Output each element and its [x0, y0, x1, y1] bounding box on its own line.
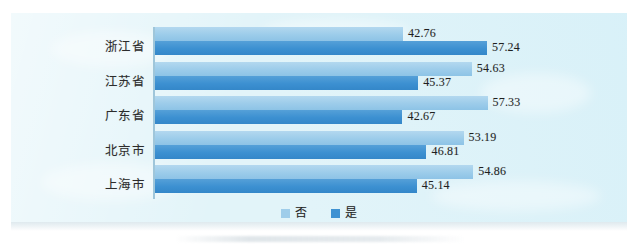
legend-item-no[interactable]: 否: [281, 207, 307, 220]
bar-row: 45.14: [155, 179, 417, 193]
legend-item-yes[interactable]: 是: [331, 207, 357, 220]
bar-group: 广东省57.3342.67: [11, 96, 627, 124]
bar-series-yes[interactable]: [155, 110, 402, 124]
bar-value-label: 45.37: [423, 75, 451, 90]
bar-series-no[interactable]: [155, 27, 403, 41]
bar-series-no[interactable]: [155, 62, 472, 76]
category-label: 北京市: [33, 144, 153, 158]
legend-label-no: 否: [295, 207, 307, 220]
chart-figure: 浙江省42.7657.24江苏省54.6345.37广东省57.3342.67北…: [0, 0, 639, 246]
bar-row: 57.24: [155, 41, 487, 55]
bar-row: 57.33: [155, 96, 488, 110]
chart-legend: 否 是: [11, 205, 627, 221]
bar-row: 54.86: [155, 165, 473, 179]
bar-series-yes[interactable]: [155, 145, 426, 159]
category-label: 浙江省: [33, 40, 153, 54]
bar-series-no[interactable]: [155, 131, 464, 145]
category-label: 上海市: [33, 178, 153, 192]
plot-area: 浙江省42.7657.24江苏省54.6345.37广东省57.3342.67北…: [11, 13, 627, 222]
bar-group: 浙江省42.7657.24: [11, 27, 627, 55]
bar-group: 江苏省54.6345.37: [11, 62, 627, 90]
bar-series-no[interactable]: [155, 96, 488, 110]
bar-value-label: 42.76: [408, 26, 436, 41]
bar-value-label: 54.86: [478, 164, 506, 179]
caption-ghost-row: [175, 236, 465, 242]
bar-series-yes[interactable]: [155, 179, 417, 193]
bar-series-yes[interactable]: [155, 41, 487, 55]
bar-value-label: 42.67: [407, 109, 435, 124]
bar-series-no[interactable]: [155, 165, 473, 179]
bar-row: 53.19: [155, 131, 464, 145]
category-label: 广东省: [33, 109, 153, 123]
bar-row: 54.63: [155, 62, 472, 76]
bar-row: 42.67: [155, 110, 402, 124]
bar-value-label: 45.14: [422, 178, 450, 193]
bar-row: 45.37: [155, 76, 418, 90]
bar-row: 42.76: [155, 27, 403, 41]
bar-value-label: 54.63: [477, 61, 505, 76]
bar-value-label: 57.24: [492, 40, 520, 55]
bar-group: 北京市53.1946.81: [11, 131, 627, 159]
bar-value-label: 46.81: [431, 144, 459, 159]
chart-panel: 浙江省42.7657.24江苏省54.6345.37广东省57.3342.67北…: [11, 13, 627, 222]
bar-value-label: 57.33: [493, 95, 521, 110]
scan-edge-smudge: [11, 222, 627, 231]
bar-series-yes[interactable]: [155, 76, 418, 90]
bar-row: 46.81: [155, 145, 426, 159]
legend-label-yes: 是: [345, 207, 357, 220]
legend-swatch-yes-icon: [331, 209, 340, 218]
bar-group: 上海市54.8645.14: [11, 165, 627, 193]
bar-value-label: 53.19: [469, 130, 497, 145]
category-label: 江苏省: [33, 75, 153, 89]
legend-swatch-no-icon: [281, 209, 290, 218]
